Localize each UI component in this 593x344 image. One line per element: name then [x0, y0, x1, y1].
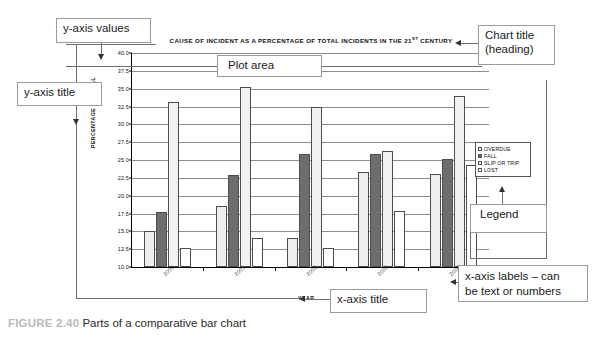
plot-area: 40.037.535.032.530.027.525.022.520.017.5… [131, 53, 489, 268]
bar-group [346, 53, 417, 267]
leader-chart-title [458, 43, 478, 44]
legend-swatch-icon [478, 154, 482, 158]
frame-legend-connector [470, 233, 471, 258]
callout-y-axis-values: y-axis values [56, 18, 151, 43]
y-tick-label: 22.5 [118, 175, 129, 181]
bar-overdue-2000 [144, 231, 155, 267]
x-tick-mark [418, 267, 419, 271]
bar-overdue-2002 [287, 238, 298, 267]
frame-bottom-horizontal [76, 298, 302, 299]
bar-fall-2000 [156, 212, 167, 267]
bar-lost-2002 [323, 248, 334, 267]
bar-group [203, 53, 274, 267]
legend-item-lost: LOST [478, 167, 528, 173]
legend-label: FALL [484, 153, 497, 159]
x-tick-mark [203, 267, 204, 271]
arrow-y-axis-title [73, 119, 79, 125]
y-tick-label: 32.5 [118, 104, 129, 110]
y-tick-label: 30.0 [118, 121, 129, 127]
legend-item-overdue: OVERDUE [478, 146, 528, 152]
x-tick-mark [346, 267, 347, 271]
bar-slip-or-trip-2004 [454, 96, 465, 267]
callout-plot-area: Plot area [217, 55, 322, 77]
leader-x-axis-title [302, 299, 330, 300]
arrow-x-axis-labels [450, 279, 456, 285]
legend-label: SLIP OR TRIP [484, 160, 519, 166]
bar-lost-2000 [180, 248, 191, 267]
y-tick-label: 25.0 [118, 157, 129, 163]
callout-y-axis-title: y-axis title [17, 82, 102, 106]
callout-legend: Legend [470, 204, 547, 233]
legend-swatch-icon [478, 168, 482, 172]
leader-plot-area-right [322, 66, 482, 67]
legend-label: OVERDUE [484, 146, 511, 152]
bar-overdue-2004 [430, 174, 441, 267]
bar-overdue-2001 [216, 206, 227, 267]
y-tick-label: 37.5 [118, 68, 129, 74]
bar-fall-2003 [370, 154, 381, 267]
bar-slip-or-trip-2000 [168, 102, 179, 267]
bar-group [275, 53, 346, 267]
bar-slip-or-trip-2002 [311, 107, 322, 268]
y-tick-label: 17.5 [118, 211, 129, 217]
y-tick-label: 15.0 [118, 228, 129, 234]
y-tick-label: 12.5 [118, 246, 129, 252]
bar-slip-or-trip-2001 [240, 87, 251, 267]
legend-item-fall: FALL [478, 153, 528, 159]
chart-title-prefix: CAUSE OF INCIDENT AS A PERCENTAGE OF TOT… [170, 37, 412, 44]
callout-x-axis-labels: x-axis labels – can be text or numbers [458, 265, 588, 302]
figure-caption-text: Parts of a comparative bar chart [82, 317, 246, 329]
arrow-legend [499, 186, 505, 192]
legend-swatch-icon [478, 147, 482, 151]
leader-legend [502, 190, 503, 204]
y-tick-label: 10.0 [118, 264, 129, 270]
y-tick-label: 40.0 [118, 50, 129, 56]
y-tick-label: 20.0 [118, 193, 129, 199]
bar-lost-2001 [252, 238, 263, 267]
chart-title-suffix: CENTURY [418, 37, 452, 44]
callout-x-axis-title: x-axis title [330, 289, 427, 313]
figure-number: FIGURE 2.40 [8, 317, 79, 329]
leader-frame-upper [66, 44, 156, 45]
chart-title: CAUSE OF INCIDENT AS A PERCENTAGE OF TOT… [146, 36, 476, 44]
x-tick-mark [275, 267, 276, 271]
bar-fall-2002 [299, 154, 310, 267]
figure-page: CAUSE OF INCIDENT AS A PERCENTAGE OF TOT… [0, 0, 593, 344]
arrow-x-axis-title [299, 296, 305, 302]
frame-right-lower [470, 258, 547, 259]
legend-label: LOST [484, 167, 498, 173]
y-tick-label: 35.0 [118, 86, 129, 92]
arrow-y-axis-values [98, 54, 104, 60]
bar-overdue-2003 [358, 172, 369, 267]
arrow-chart-title [455, 40, 461, 46]
bar-lost-2003 [394, 211, 405, 267]
leader-plot-area-left [66, 66, 217, 67]
bar-slip-or-trip-2003 [382, 151, 393, 267]
bar-fall-2004 [442, 159, 453, 267]
callout-chart-title: Chart title (heading) [478, 25, 555, 65]
legend-swatch-icon [478, 161, 482, 165]
bar-fall-2001 [228, 175, 239, 267]
legend-item-slip-or-trip: SLIP OR TRIP [478, 160, 528, 166]
chart-legend: OVERDUEFALLSLIP OR TRIPLOST [475, 142, 531, 177]
y-tick-label: 27.5 [118, 139, 129, 145]
bar-group [132, 53, 203, 267]
figure-caption: FIGURE 2.40 Parts of a comparative bar c… [8, 317, 246, 329]
